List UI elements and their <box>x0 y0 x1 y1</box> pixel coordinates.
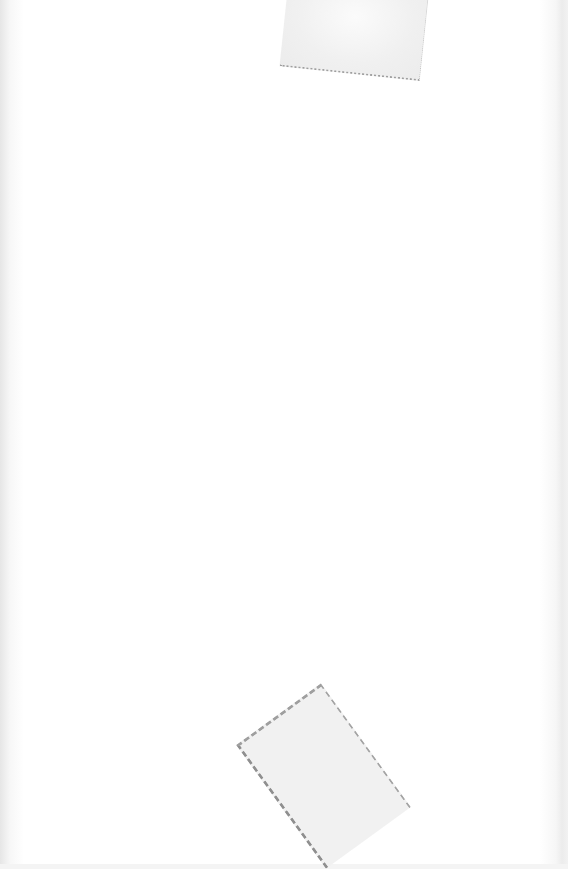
tape-residue-top <box>279 0 429 81</box>
tape-residue-bottom <box>236 683 411 868</box>
